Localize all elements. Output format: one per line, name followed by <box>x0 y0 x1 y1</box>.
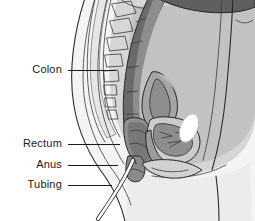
label-rectum: Rectum <box>23 137 62 149</box>
anatomy-illustration: Colon Rectum Anus Tubing <box>0 0 255 221</box>
label-colon: Colon <box>32 63 62 75</box>
labels-group: Colon Rectum Anus Tubing <box>23 63 62 190</box>
label-tubing: Tubing <box>28 178 62 190</box>
anatomy-figure: Colon Rectum Anus Tubing <box>0 0 255 221</box>
label-anus: Anus <box>36 158 62 170</box>
